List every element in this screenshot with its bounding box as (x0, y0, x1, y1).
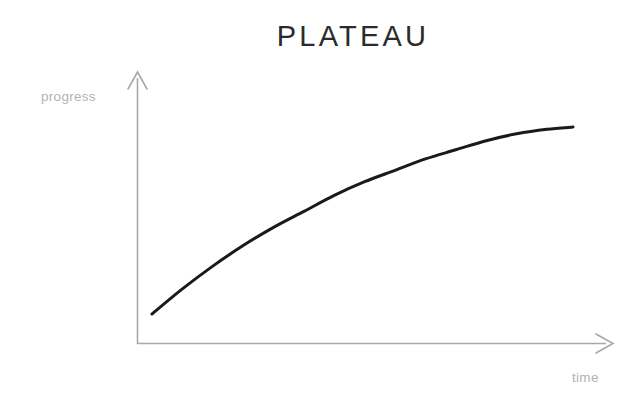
plateau-diagram: PLATEAU progress time (0, 0, 642, 410)
axes-group (128, 72, 613, 353)
page-title: PLATEAU (0, 22, 642, 51)
x-axis-label: time (572, 371, 599, 385)
chart-canvas (0, 0, 642, 410)
plateau-curve (152, 127, 573, 314)
y-axis-label: progress (41, 90, 96, 104)
